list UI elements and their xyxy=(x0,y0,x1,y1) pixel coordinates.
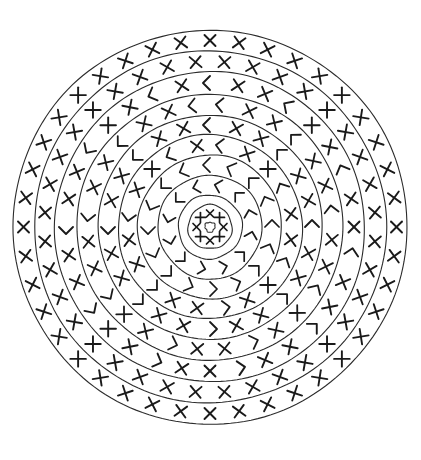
concentric-ring-mandala xyxy=(0,0,421,460)
drawing-canvas xyxy=(0,0,421,460)
